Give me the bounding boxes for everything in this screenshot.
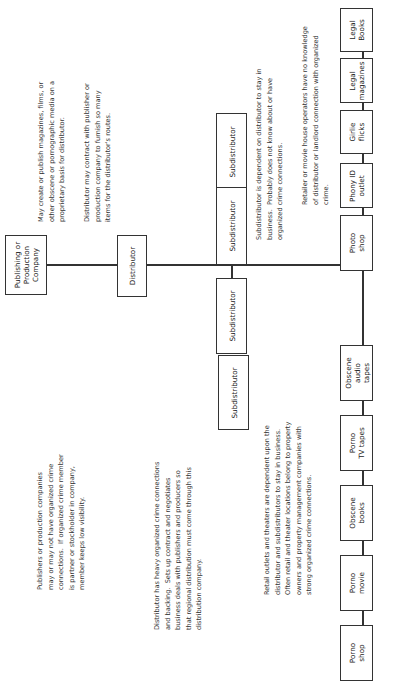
retail-node: Obscene books [340, 485, 373, 541]
retail-node: Phony ID outlet [340, 163, 373, 208]
subdistributor-node: Subdistributor [218, 355, 249, 430]
note-subdistributor-right: Subdistributor is dependent on distribut… [254, 68, 286, 240]
retail-node: Photo shop [340, 215, 373, 271]
note-publisher-left: Publishers or production companies may o… [35, 454, 88, 590]
note-distributor-left: Distributor has heavy organized crime co… [152, 462, 205, 630]
trunk-line [46, 264, 366, 266]
retail-node: Legal magazines [340, 58, 373, 103]
retail-node: Legal Books [340, 8, 373, 52]
note-retail-left: Retail outlets and theaters are dependen… [262, 422, 315, 595]
retail-node: Porno shop [340, 625, 373, 681]
retail-node: Girlie flicks [340, 110, 373, 154]
retail-node: Obscene audio tapes [340, 345, 373, 401]
subdistributor-node: Subdistributor [216, 187, 247, 265]
publisher-node: Publishing or Production Company [5, 235, 47, 295]
note-publisher-right: May create or publish magazines, films, … [36, 81, 68, 222]
distributor-label: Distributor [128, 247, 137, 285]
distributor-node: Distributor [117, 235, 147, 297]
retail-node: Porno TV tapes [340, 415, 373, 471]
note-distributor-right: Distributor may contract with publisher … [82, 83, 114, 222]
note-retail-right: Retailer or movie house operators have n… [300, 26, 332, 205]
retail-node: Porno movie [340, 555, 373, 611]
subdistributor-node: Subdistributor [216, 113, 247, 191]
publisher-label: Publishing or Production Company [13, 242, 40, 288]
subdistributor-node: Subdistributor [216, 278, 247, 354]
